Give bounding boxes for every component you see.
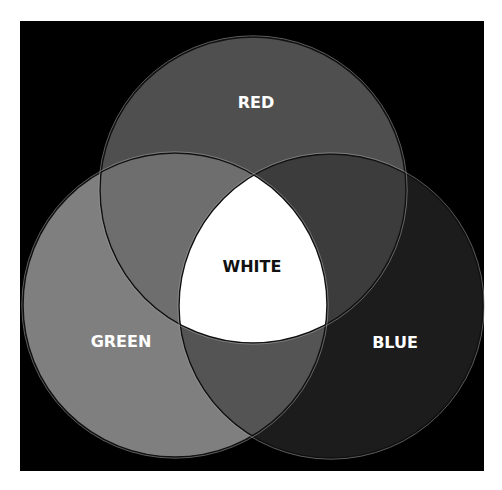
venn-diagram: RED GREEN BLUE WHITE [0,0,502,490]
label-blue: BLUE [372,333,418,352]
label-green: GREEN [91,332,152,351]
label-white: WHITE [223,257,282,276]
label-red: RED [238,93,275,112]
